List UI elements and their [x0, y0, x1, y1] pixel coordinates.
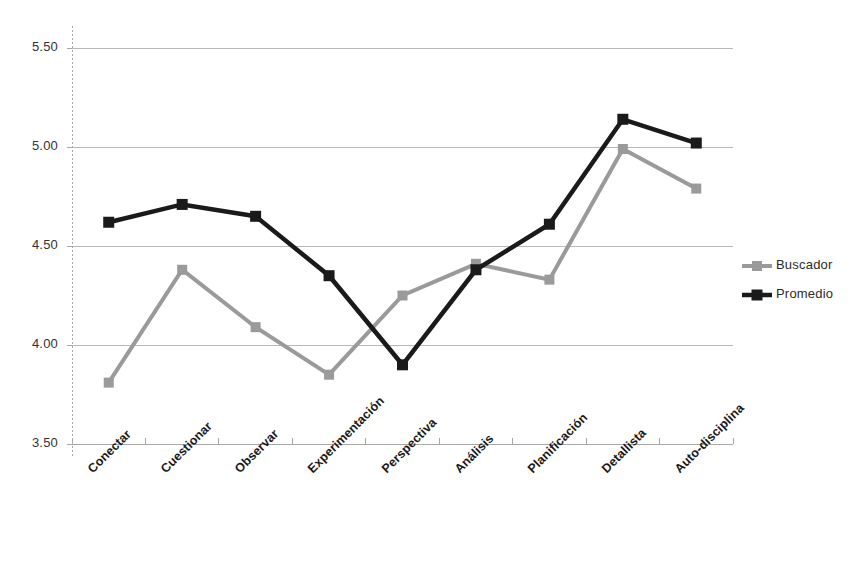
- legend-marker-swatch: [752, 261, 762, 271]
- series-marker: [324, 270, 335, 281]
- series-marker: [250, 211, 261, 222]
- series-marker: [470, 264, 481, 275]
- series-marker: [691, 138, 702, 149]
- legend-entry-label: Buscador: [776, 257, 833, 272]
- chart-plot-area: [0, 0, 862, 570]
- y-axis-tick-label: 3.50: [18, 435, 58, 450]
- series-marker: [617, 114, 628, 125]
- y-axis-tick-label: 4.50: [18, 237, 58, 252]
- legend-entry-label: Promedio: [776, 286, 833, 301]
- series-marker: [398, 291, 408, 301]
- series-marker: [618, 144, 628, 154]
- series-line: [109, 119, 697, 365]
- y-axis-tick-label: 5.50: [18, 39, 58, 54]
- series-marker: [324, 370, 334, 380]
- series-marker: [544, 219, 555, 230]
- series-marker: [251, 322, 261, 332]
- series-marker: [104, 378, 114, 388]
- series-marker: [103, 217, 114, 228]
- series-marker: [177, 199, 188, 210]
- series-marker: [397, 359, 408, 370]
- y-axis-tick-label: 5.00: [18, 138, 58, 153]
- series-marker: [177, 265, 187, 275]
- series-marker: [691, 184, 701, 194]
- legend-marker-swatch: [752, 290, 763, 301]
- series-marker: [544, 275, 554, 285]
- series-line: [109, 149, 697, 383]
- y-axis-tick-label: 4.00: [18, 336, 58, 351]
- line-chart: 5.505.004.504.003.50ConectarCuestionarOb…: [0, 0, 862, 570]
